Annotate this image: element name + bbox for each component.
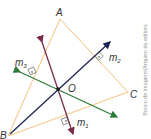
right-angle-mark-m2 — [95, 52, 103, 60]
image-credit: Banco de imagens/Arquivo da editora — [140, 2, 150, 137]
label-o: O — [68, 83, 76, 94]
bisector-m3 — [20, 72, 117, 117]
circumcenter-point-o — [56, 87, 60, 91]
right-angle-mark-m3 — [28, 67, 36, 75]
label-m2: m2 — [109, 52, 121, 64]
label-m3: m3 — [15, 57, 27, 69]
label-c: C — [130, 89, 138, 100]
label-a: A — [55, 7, 63, 18]
label-m1: m1 — [77, 117, 89, 129]
triangle-perpendicular-bisectors-diagram: A B C O m1 m2 m3 — [0, 0, 151, 139]
label-b: B — [0, 130, 7, 139]
